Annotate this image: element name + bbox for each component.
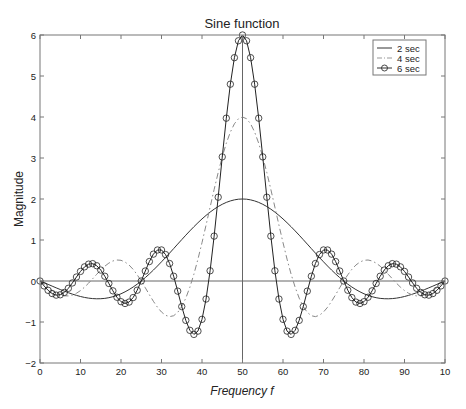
y-tick-label: −1 bbox=[25, 317, 36, 328]
y-axis-label: Magnitude bbox=[12, 171, 26, 227]
x-tick-label: 80 bbox=[359, 366, 370, 377]
x-tick-label: 0 bbox=[37, 366, 42, 377]
chart-title: Sine function bbox=[204, 16, 279, 31]
x-tick-label: 60 bbox=[278, 366, 289, 377]
x-tick-label: 10 bbox=[440, 366, 451, 377]
y-tick-label: 4 bbox=[31, 112, 36, 123]
chart-container: Sine function 010203040506070809010 −2−1… bbox=[0, 0, 466, 409]
y-tick-label: 2 bbox=[31, 194, 36, 205]
x-tick-label: 50 bbox=[237, 366, 248, 377]
y-tick-label: −2 bbox=[25, 358, 36, 369]
y-tick-label: 1 bbox=[31, 235, 36, 246]
chart-svg: Sine function 010203040506070809010 −2−1… bbox=[0, 0, 466, 409]
x-tick-label: 30 bbox=[156, 366, 167, 377]
x-tick-label: 90 bbox=[399, 366, 410, 377]
x-tick-label: 10 bbox=[75, 366, 86, 377]
x-tick-label: 70 bbox=[318, 366, 329, 377]
x-axis-label: Frequency f bbox=[210, 384, 275, 398]
y-tick-label: 3 bbox=[31, 153, 36, 164]
y-tick-label: 6 bbox=[31, 30, 36, 41]
x-tick-label: 20 bbox=[116, 366, 127, 377]
legend: 2 sec 4 sec 6 sec bbox=[373, 40, 426, 75]
legend-label-6sec: 6 sec bbox=[397, 63, 420, 74]
y-tick-label: 0 bbox=[31, 276, 36, 287]
y-tick-label: 5 bbox=[31, 71, 36, 82]
x-tick-label: 40 bbox=[197, 366, 208, 377]
